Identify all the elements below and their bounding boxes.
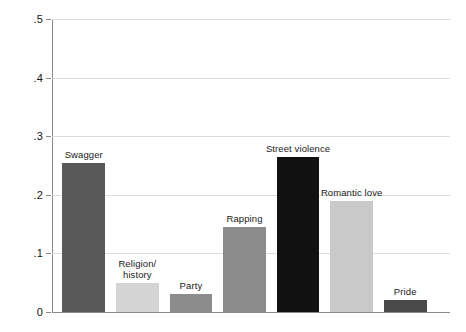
- bar-label-1: Swagger: [65, 149, 103, 160]
- tick-mark: [46, 136, 51, 137]
- y-tick-label: .3: [33, 130, 43, 142]
- tick-mark: [46, 78, 51, 79]
- bar-label-4: Rapping: [226, 213, 262, 224]
- bar-label-6: Romantic love: [321, 187, 383, 198]
- bar-chart: .5 .4 .3 .2 .1 0 SwaggerReligion/hist: [0, 0, 466, 332]
- y-tick-label: 0: [37, 306, 43, 318]
- bar-5: Street violence: [277, 157, 320, 312]
- x-axis-line: [52, 312, 450, 313]
- bar-3: Party: [170, 294, 213, 312]
- y-tick-label: .1: [33, 247, 43, 259]
- bar-2: Religion/history: [116, 283, 159, 312]
- bar-label-5: Street violence: [266, 143, 330, 154]
- y-tick-label: .2: [33, 189, 43, 201]
- bar-label-2: Religion/history: [107, 258, 167, 280]
- bar-label-7: Pride: [394, 286, 417, 297]
- bars-layer: SwaggerReligion/historyPartyRappingStree…: [52, 19, 450, 312]
- bar-1: Swagger: [62, 163, 105, 312]
- plot-area: .5 .4 .3 .2 .1 0 SwaggerReligion/hist: [52, 19, 450, 312]
- bar-4: Rapping: [223, 227, 266, 312]
- y-tick-label: .5: [33, 13, 43, 25]
- tick-mark: [46, 195, 51, 196]
- bar-7: Pride: [384, 300, 427, 312]
- bar-label-3: Party: [180, 280, 203, 291]
- tick-mark: [46, 19, 51, 20]
- y-tick-label: .4: [33, 72, 43, 84]
- bar-6: Romantic love: [330, 201, 373, 312]
- tick-mark: [46, 253, 51, 254]
- tick-mark: [46, 312, 51, 313]
